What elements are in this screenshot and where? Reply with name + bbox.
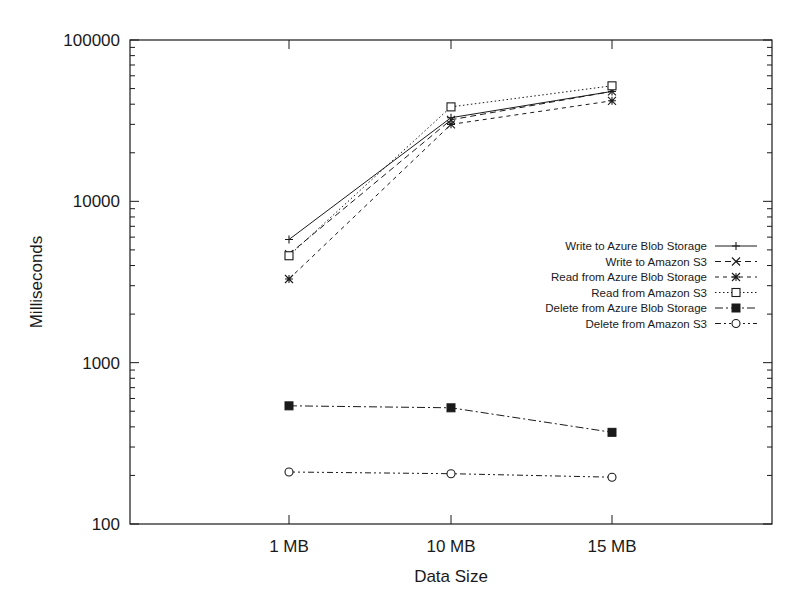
legend-item: Write to Azure Blob Storage	[565, 240, 757, 252]
series-write-to-amazon-s3	[285, 87, 616, 258]
legend-item: Write to Amazon S3	[606, 256, 757, 268]
x-tick-label: 10 MB	[426, 537, 475, 556]
legend-label: Read from Amazon S3	[591, 287, 707, 299]
legend-item: Delete from Azure Blob Storage	[545, 302, 757, 314]
open-circle-marker-icon	[285, 468, 293, 476]
y-tick-label: 100	[92, 515, 120, 534]
filled-square-marker-icon	[447, 404, 455, 412]
legend-label: Write to Azure Blob Storage	[565, 240, 707, 252]
asterisk-marker-icon	[732, 273, 740, 281]
series-delete-from-amazon-s3	[285, 468, 616, 481]
legend-item: Read from Amazon S3	[591, 287, 757, 299]
open-square-marker-icon	[285, 252, 293, 260]
series-read-from-amazon-s3	[285, 82, 616, 260]
plus-marker-icon	[285, 236, 293, 244]
open-circle-marker-icon	[608, 473, 616, 481]
open-square-marker-icon	[447, 103, 455, 111]
filled-square-marker-icon	[608, 428, 616, 436]
legend-item: Read from Azure Blob Storage	[551, 271, 757, 283]
legend-label: Read from Azure Blob Storage	[551, 271, 707, 283]
x-tick-label: 15 MB	[587, 537, 636, 556]
plus-marker-icon	[732, 242, 740, 250]
open-square-marker-icon	[608, 82, 616, 90]
filled-square-marker-icon	[285, 402, 293, 410]
series-delete-from-azure-blob-storage	[285, 402, 616, 436]
line-chart: 100100010000100000 1 MB10 MB15 MB Write …	[0, 0, 795, 608]
x-tick-label: 1 MB	[269, 537, 309, 556]
asterisk-marker-icon	[447, 120, 455, 128]
legend-label: Delete from Azure Blob Storage	[545, 302, 707, 314]
series-read-from-azure-blob-storage	[285, 97, 616, 283]
open-square-marker-icon	[732, 289, 740, 297]
legend-label: Delete from Amazon S3	[586, 318, 707, 330]
x-axis-title: Data Size	[414, 567, 488, 586]
y-axis-title: Milliseconds	[27, 236, 46, 329]
open-circle-marker-icon	[447, 470, 455, 478]
series-line	[289, 91, 612, 239]
legend-item: Delete from Amazon S3	[586, 318, 757, 330]
legend: Write to Azure Blob StorageWrite to Amaz…	[545, 240, 757, 330]
legend-label: Write to Amazon S3	[606, 256, 707, 268]
open-circle-marker-icon	[732, 320, 740, 328]
y-tick-label: 100000	[63, 31, 120, 50]
filled-square-marker-icon	[732, 304, 740, 312]
y-tick-label: 1000	[82, 354, 120, 373]
y-tick-label: 10000	[73, 192, 120, 211]
asterisk-marker-icon	[608, 97, 616, 105]
asterisk-marker-icon	[285, 275, 293, 283]
